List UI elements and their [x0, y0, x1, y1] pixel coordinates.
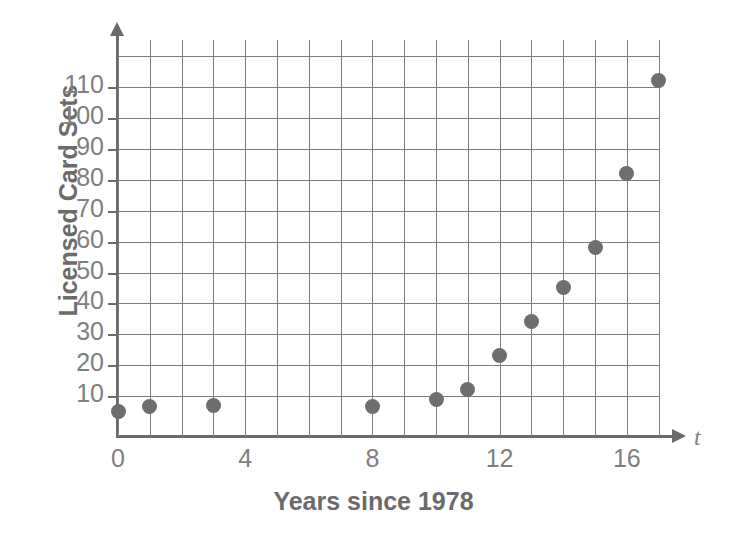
data-point: [111, 404, 126, 419]
gridline-vertical: [309, 40, 310, 437]
gridline-vertical: [150, 40, 151, 437]
x-axis-tick-label: 16: [613, 444, 641, 473]
data-point: [429, 392, 444, 407]
x-axis-tick-label: 0: [111, 444, 125, 473]
gridline-horizontal: [118, 273, 659, 274]
data-point: [142, 399, 157, 414]
y-axis-tick-label: 40: [0, 286, 104, 315]
y-axis-tick: [108, 334, 118, 336]
y-axis-tick: [108, 87, 118, 89]
gridline-vertical: [468, 40, 469, 437]
scatter-plot-figure: Licensed Card Sets 102030405060708090100…: [0, 0, 747, 537]
gridline-horizontal: [118, 396, 659, 397]
gridline-vertical: [118, 40, 119, 437]
data-point: [651, 73, 666, 88]
y-axis-tick-label: 60: [0, 225, 104, 254]
plot-area: [118, 40, 659, 437]
gridline-horizontal: [118, 211, 659, 212]
data-point: [588, 240, 603, 255]
data-point: [365, 399, 380, 414]
gridline-horizontal-top: [118, 56, 659, 57]
y-axis-tick: [108, 242, 118, 244]
y-axis-tick-label: 100: [0, 101, 104, 130]
data-point: [524, 314, 539, 329]
y-axis-tick: [108, 180, 118, 182]
x-axis-tick-label: 12: [486, 444, 514, 473]
y-axis-tick: [108, 303, 118, 305]
gridline-vertical: [245, 40, 246, 437]
y-axis-tick: [108, 273, 118, 275]
y-axis-arrow-icon: [110, 22, 124, 36]
gridline-horizontal: [118, 118, 659, 119]
x-axis-tick-label: 8: [365, 444, 379, 473]
gridline-horizontal: [118, 334, 659, 335]
gridline-vertical: [404, 40, 405, 437]
data-point: [556, 280, 571, 295]
gridline-horizontal: [118, 149, 659, 150]
data-point: [206, 398, 221, 413]
y-axis-tick: [108, 396, 118, 398]
gridline-vertical: [182, 40, 183, 437]
y-axis-tick: [108, 118, 118, 120]
gridline-vertical: [341, 40, 342, 437]
gridline-horizontal: [118, 180, 659, 181]
y-axis-tick-label: 50: [0, 256, 104, 285]
x-axis-title: Years since 1978: [0, 487, 747, 516]
y-axis-tick: [108, 211, 118, 213]
y-axis-tick-label: 10: [0, 379, 104, 408]
gridline-horizontal: [118, 303, 659, 304]
gridline-vertical: [563, 40, 564, 437]
x-axis-arrow-icon: [672, 429, 686, 443]
gridline-vertical: [372, 40, 373, 437]
y-axis-tick-label: 80: [0, 163, 104, 192]
y-axis-tick-label: 70: [0, 194, 104, 223]
y-axis-tick-label: 20: [0, 348, 104, 377]
gridline-vertical: [213, 40, 214, 437]
gridline-vertical: [500, 40, 501, 437]
y-axis-tick-label: 90: [0, 132, 104, 161]
gridline-vertical: [627, 40, 628, 437]
gridline-vertical: [595, 40, 596, 437]
gridline-vertical: [659, 40, 660, 437]
x-axis-tick-label: 4: [238, 444, 252, 473]
gridline-vertical: [277, 40, 278, 437]
y-axis-tick-label: 30: [0, 317, 104, 346]
data-point: [492, 348, 507, 363]
y-axis-tick: [108, 149, 118, 151]
gridline-horizontal: [118, 365, 659, 366]
y-axis-tick-label: 110: [0, 70, 104, 99]
gridline-horizontal: [118, 242, 659, 243]
y-axis-tick: [108, 365, 118, 367]
gridline-vertical: [436, 40, 437, 437]
gridline-horizontal: [118, 87, 659, 88]
gridline-vertical: [531, 40, 532, 437]
x-axis-variable-label: t: [694, 424, 701, 451]
